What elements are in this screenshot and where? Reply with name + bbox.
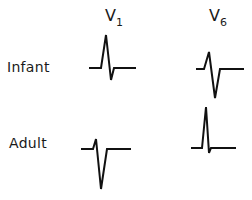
waveform-adult-v6 (191, 107, 236, 153)
waveform-adult-v1 (81, 139, 131, 189)
waveform-infant-v6 (196, 52, 244, 98)
ecg-waveform-diagram (0, 0, 252, 200)
waveform-infant-v1 (89, 35, 136, 80)
